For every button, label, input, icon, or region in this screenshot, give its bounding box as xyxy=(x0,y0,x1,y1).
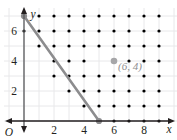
x-tick-8: 8 xyxy=(141,124,147,136)
boundary-line xyxy=(21,13,102,124)
coordinate-plane-figure: 2 4 6 8 2 4 6 O x y (6, 4) xyxy=(0,0,177,140)
y-tick-4: 4 xyxy=(11,55,17,67)
highlighted-point: (6, 4) xyxy=(111,58,142,73)
origin-label: O xyxy=(5,126,14,138)
graph-svg: 2 4 6 8 2 4 6 O x y (6, 4) xyxy=(0,0,177,140)
x-tick-2: 2 xyxy=(51,124,57,136)
y-axis-label: y xyxy=(29,8,36,21)
y-axis-arrow-down-icon xyxy=(21,126,27,133)
y-axis-arrow-icon xyxy=(21,7,27,14)
x-axis-label: x xyxy=(165,123,172,135)
x-tick-labels: 2 4 6 8 xyxy=(51,124,147,136)
x-tick-6: 6 xyxy=(111,124,117,136)
y-tick-labels: 2 4 6 xyxy=(11,25,17,97)
y-tick-2: 2 xyxy=(11,85,17,97)
x-tick-4: 4 xyxy=(81,124,87,136)
highlighted-point-label: (6, 4) xyxy=(118,60,142,73)
x-axis xyxy=(5,118,175,124)
y-tick-6: 6 xyxy=(11,25,17,37)
y-axis xyxy=(21,7,27,133)
